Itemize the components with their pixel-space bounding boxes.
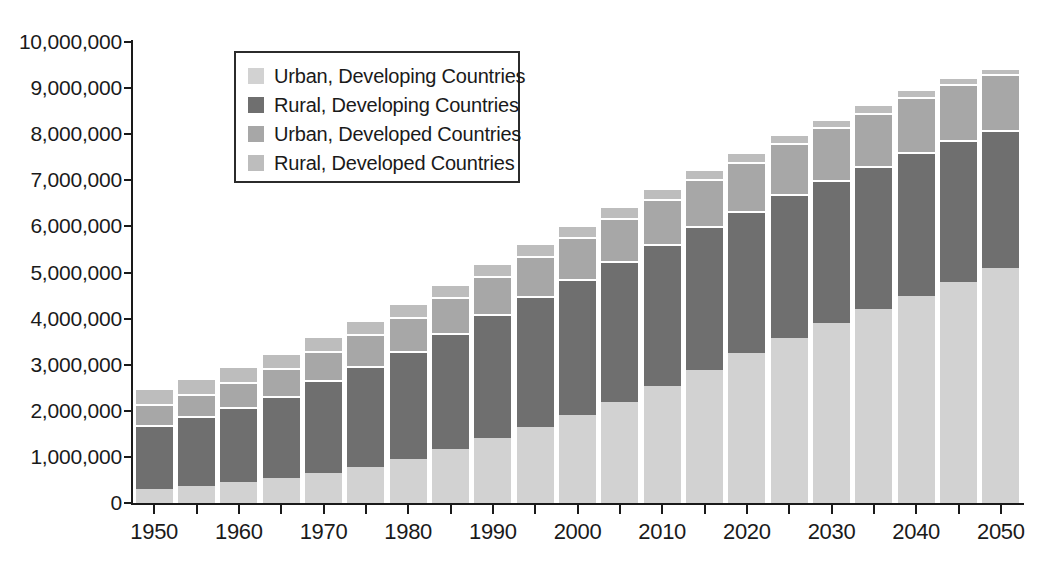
bar-segment [517, 243, 554, 255]
y-tick [124, 410, 132, 412]
bar-segment [220, 382, 257, 407]
legend-swatch-icon [248, 155, 264, 171]
bar-segment [347, 320, 384, 334]
bar-segment [813, 127, 850, 180]
bar-segment [855, 113, 892, 167]
bar-column [136, 388, 173, 503]
bar-segment [644, 244, 681, 386]
bar-segment [559, 279, 596, 415]
bar-segment [390, 459, 427, 503]
x-tick [365, 505, 367, 514]
legend-swatch-icon [248, 126, 264, 142]
bar-segment [898, 296, 935, 503]
bar-segment [305, 380, 342, 473]
x-axis-tick-label: 1970 [300, 519, 348, 545]
bar-segment [263, 478, 300, 503]
bar-segment [390, 351, 427, 459]
bar-segment [982, 74, 1019, 129]
bar-segment [601, 261, 638, 402]
bar-segment [305, 336, 342, 351]
y-axis-tick-label: 1,000,000 [4, 445, 122, 469]
x-tick [280, 505, 282, 514]
bar-segment [982, 268, 1019, 503]
bar-segment [601, 206, 638, 218]
x-tick [492, 505, 494, 514]
y-tick [124, 179, 132, 181]
legend-item-label: Rural, Developing Countries [274, 94, 519, 117]
x-axis-tick-label: 2010 [638, 519, 686, 545]
bar-segment [220, 482, 257, 503]
bar-column [390, 303, 427, 503]
bar-segment [432, 284, 469, 297]
bar-segment [728, 353, 765, 503]
bar-segment [263, 368, 300, 395]
bar-segment [559, 415, 596, 503]
bar-segment [305, 473, 342, 503]
x-tick [831, 505, 833, 514]
bar-segment [474, 276, 511, 314]
x-axis-tick-label: 1960 [215, 519, 263, 545]
bar-segment [771, 194, 808, 338]
x-tick [577, 505, 579, 514]
x-tick [958, 505, 960, 514]
y-tick [124, 41, 132, 43]
bar-segment [432, 449, 469, 503]
bar-column [517, 243, 554, 503]
x-tick [323, 505, 325, 514]
bar-column [305, 336, 342, 503]
chart-legend: Urban, Developing CountriesRural, Develo… [234, 51, 520, 183]
bar-segment [474, 263, 511, 276]
y-tick [124, 272, 132, 274]
bar-segment [347, 366, 384, 467]
bar-segment [178, 416, 215, 486]
y-tick [124, 133, 132, 135]
bar-segment [559, 237, 596, 278]
bar-column [601, 206, 638, 503]
bar-column [559, 225, 596, 503]
bar-column [813, 119, 850, 503]
bar-segment [390, 303, 427, 317]
x-axis-tick-label: 2040 [892, 519, 940, 545]
bar-segment [855, 309, 892, 503]
bar-segment [771, 134, 808, 143]
x-tick [238, 505, 240, 514]
bar-segment [813, 323, 850, 503]
x-tick [619, 505, 621, 514]
bar-segment [136, 388, 173, 404]
bar-segment [601, 402, 638, 503]
bar-segment [686, 226, 723, 369]
bar-segment [728, 152, 765, 162]
bar-segment [136, 425, 173, 490]
bar-column [347, 320, 384, 503]
bar-segment [855, 166, 892, 308]
y-tick [124, 456, 132, 458]
bar-column [686, 169, 723, 503]
x-tick [1000, 505, 1002, 514]
x-tick [450, 505, 452, 514]
bar-column [474, 263, 511, 503]
bar-segment [220, 366, 257, 382]
y-axis-tick-label: 0 [4, 491, 122, 515]
bar-column [982, 68, 1019, 503]
y-axis-tick-label: 3,000,000 [4, 353, 122, 377]
x-tick [661, 505, 663, 514]
y-tick [124, 502, 132, 504]
y-tick [124, 318, 132, 320]
legend-item: Urban, Developed Countries [248, 120, 518, 148]
bar-segment [898, 97, 935, 152]
bar-segment [178, 486, 215, 503]
bar-segment [982, 130, 1019, 268]
bar-column [728, 152, 765, 503]
bar-segment [474, 314, 511, 439]
bar-segment [940, 84, 977, 141]
x-tick [873, 505, 875, 514]
bar-segment [305, 351, 342, 381]
y-tick [124, 364, 132, 366]
bar-column [220, 366, 257, 503]
bar-segment [686, 179, 723, 226]
x-tick [746, 505, 748, 514]
y-axis-tick-label: 6,000,000 [4, 214, 122, 238]
bar-segment [601, 218, 638, 261]
bar-segment [644, 188, 681, 199]
bar-segment [771, 143, 808, 194]
